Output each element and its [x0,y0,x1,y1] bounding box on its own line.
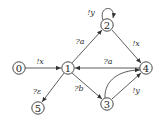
svg-text:1: 1 [65,63,71,74]
edge-0-1: !x [25,57,61,69]
svg-text:5: 5 [35,103,41,114]
edge-label-2-2: !y [87,8,95,17]
state-diagram: !x ?a !y !x ?a ?b !y ?ε 0 1 2 [0,0,160,120]
state-node-2: 2 [101,19,113,31]
state-node-1: 1 [62,62,74,74]
state-node-5: 5 [32,102,44,114]
edge-label-2-4: !x [132,39,140,48]
svg-text:3: 3 [104,99,110,110]
svg-text:2: 2 [104,20,110,31]
svg-text:0: 0 [16,63,22,74]
state-node-0: 0 [13,62,25,74]
edge-4-1: ?a [75,57,140,69]
edge-2-4: !x [112,30,141,63]
svg-text:4: 4 [143,63,149,74]
edge-label-1-5: ?ε [33,87,42,96]
edge-label-3-4: !y [132,86,140,95]
edge-label-1-3: ?b [74,84,83,93]
edge-3-4-straight: !y [112,73,141,99]
edge-2-2-selfloop: !y [87,8,113,21]
state-node-4: 4 [140,62,152,74]
edge-1-5: ?ε [33,73,64,102]
state-node-3: 3 [101,98,113,110]
edge-1-3: ?b [72,73,102,99]
edge-label-4-1: ?a [103,57,112,66]
edge-label-1-2: ?a [75,37,84,46]
edge-label-0-1: !x [36,57,44,66]
edge-1-2: ?a [72,30,102,63]
